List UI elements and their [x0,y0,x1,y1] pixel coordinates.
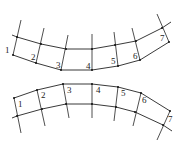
top-upper-node [114,44,116,46]
top-arc-mesh: 1 2 3 4 5 6 7 [5,14,171,71]
bottom-upper-node [62,83,64,85]
top-radial-2 [36,28,44,63]
diagram-canvas: 1 2 3 4 5 6 7 1 [0,0,184,151]
bottom-label-2: 2 [41,90,46,100]
bottom-lower-node [91,103,93,105]
top-upper-curve [12,22,171,49]
top-lower-node [12,54,14,56]
top-lower-node [35,62,37,64]
top-radial-3 [61,35,68,70]
top-label-4: 4 [86,61,91,71]
top-label-7: 7 [160,33,165,43]
top-upper-node [16,36,18,38]
bottom-label-3: 3 [67,85,72,95]
top-label-3: 3 [56,60,61,70]
top-label-6: 6 [133,51,138,61]
bottom-label-5: 5 [121,88,126,98]
bottom-upper-node [13,97,15,99]
top-upper-node [161,27,163,29]
bottom-lower-node [115,106,117,108]
bottom-upper-node [169,110,171,112]
top-label-2: 2 [31,52,36,62]
top-upper-node [135,40,137,42]
bottom-radial-6 [133,93,141,126]
bottom-upper-node [140,92,142,94]
top-lower-curve [13,42,169,70]
bottom-arc-mesh: 1 2 3 4 5 6 7 [12,83,173,140]
bottom-lower-node [134,111,136,113]
bottom-lower-node [16,115,18,117]
bottom-label-6: 6 [142,95,147,105]
bottom-label-4: 4 [96,85,101,95]
top-lower-node [117,65,119,67]
top-upper-node [65,48,67,50]
bottom-upper-node [36,89,38,91]
bottom-upper-node [91,83,93,85]
top-upper-node [91,48,93,50]
top-upper-node [40,43,42,45]
bottom-lower-node [162,124,164,126]
top-lower-node [168,41,170,43]
top-label-1: 1 [5,45,10,55]
bottom-label-7: 7 [168,114,173,124]
bottom-lower-node [65,103,67,105]
bottom-upper-node [117,86,119,88]
bottom-radial-5 [114,87,118,121]
top-lower-node [139,59,141,61]
bottom-lower-node [41,108,43,110]
top-label-5: 5 [111,56,116,66]
top-lower-node [91,69,93,71]
bottom-label-1: 1 [18,99,23,109]
